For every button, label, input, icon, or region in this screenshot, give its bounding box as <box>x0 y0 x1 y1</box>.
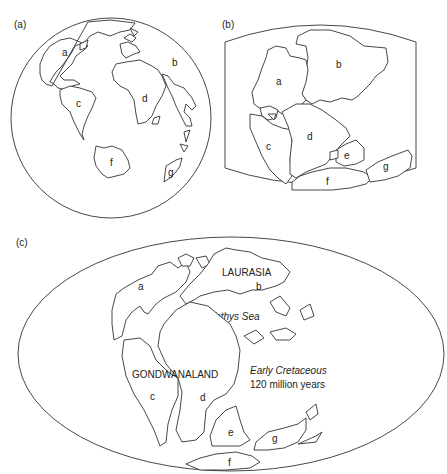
label-b: b <box>256 281 262 292</box>
label-e: e <box>228 427 234 438</box>
label-g: g <box>272 433 278 444</box>
label-laurasia: LAURASIA <box>222 267 272 278</box>
label-d: d <box>142 93 148 104</box>
panel-a: (a) a d c b f g <box>11 18 211 218</box>
label-e: e <box>344 150 350 161</box>
label-f: f <box>326 176 329 187</box>
continent-c <box>250 114 292 184</box>
label-c: c <box>266 141 271 152</box>
panel-c: (c) a LAURASIA b Tethys Sea c d GONDWANA… <box>16 237 444 471</box>
label-b: b <box>172 57 178 68</box>
label-gondwanaland: GONDWANALAND <box>132 369 218 380</box>
globe-outline <box>11 18 211 218</box>
continental-drift-diagram: (a) a d c b f g (b) b a <box>0 0 447 474</box>
continent-c <box>60 86 96 140</box>
label-a: a <box>138 281 144 292</box>
label-b: b <box>336 59 342 70</box>
label-d: d <box>307 131 313 142</box>
continent-d <box>112 60 166 124</box>
panel-c-label: (c) <box>16 237 28 248</box>
continent-b <box>296 30 388 104</box>
continent-b <box>162 74 196 126</box>
label-f: f <box>110 157 113 168</box>
continent-g <box>366 150 412 182</box>
continent-f <box>186 452 260 470</box>
label-d: d <box>200 392 206 403</box>
label-g: g <box>168 167 174 178</box>
label-c: c <box>76 98 81 109</box>
continent-d <box>282 104 350 178</box>
panel-b: (b) b a c d e f g <box>222 19 416 190</box>
label-a: a <box>276 76 282 87</box>
continent-e <box>210 406 250 446</box>
label-c: c <box>150 391 155 402</box>
label-age: 120 million years <box>250 379 325 390</box>
label-period: Early Cretaceous <box>250 365 327 376</box>
panel-a-label: (a) <box>14 19 26 30</box>
label-a: a <box>62 47 68 58</box>
label-g: g <box>383 161 389 172</box>
label-f: f <box>228 457 231 468</box>
continent-g <box>254 418 306 450</box>
panel-b-label: (b) <box>222 19 234 30</box>
